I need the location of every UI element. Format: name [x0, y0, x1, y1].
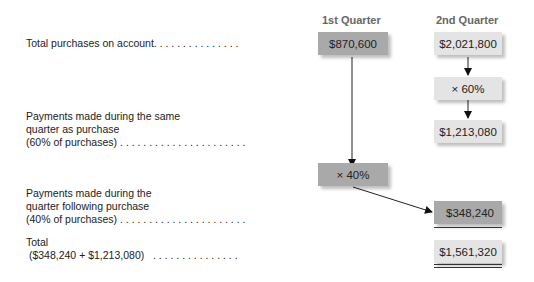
- box-q1-rate-40: × 40%: [318, 163, 388, 186]
- box-q2-same-quarter: $1,213,080: [434, 120, 502, 143]
- single-underline: [434, 227, 502, 228]
- arrow-40pct-to-following: [353, 187, 432, 212]
- box-q2-rate-60: × 60%: [434, 77, 502, 100]
- box-q2-following: $348,240: [434, 201, 502, 224]
- double-underline-top: [434, 264, 502, 265]
- box-q2-purchases: $2,021,800: [434, 32, 502, 55]
- box-q2-total: $1,561,320: [434, 240, 502, 263]
- double-underline-bottom: [434, 267, 502, 268]
- box-q1-purchases: $870,600: [318, 32, 388, 55]
